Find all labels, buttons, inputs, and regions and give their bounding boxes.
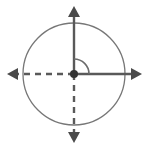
origin-point-dot [70,70,78,78]
arrowhead-up-icon [68,6,80,17]
arrowhead-down-icon [68,132,80,143]
diagram-canvas [0,0,148,148]
arrowhead-right-icon [131,68,142,80]
unit-circle-diagram [0,0,148,148]
arrowhead-left-icon [7,68,18,80]
